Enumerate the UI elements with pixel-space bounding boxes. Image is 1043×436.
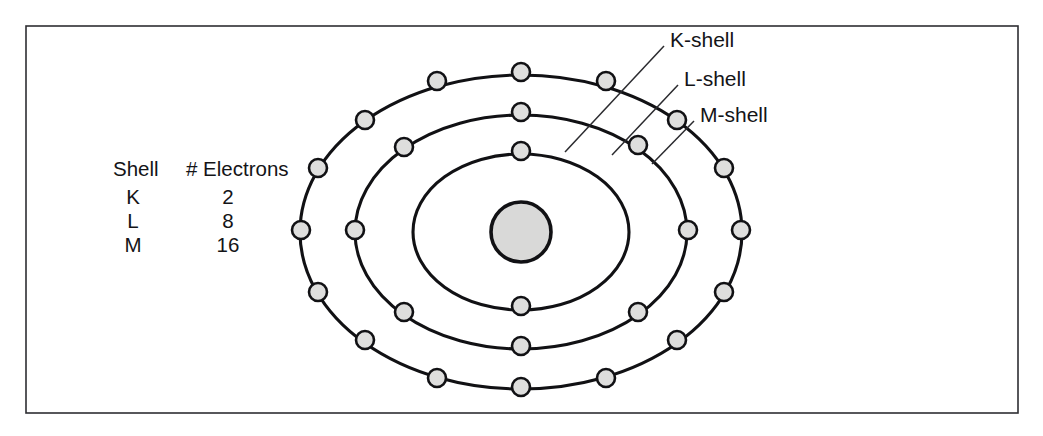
electron-m — [597, 369, 615, 387]
electron-m — [428, 369, 446, 387]
callout-label-l-shell: L-shell — [684, 67, 746, 90]
electron-l — [395, 138, 413, 156]
electron-m — [428, 72, 446, 90]
callout-label-k-shell: K-shell — [670, 28, 734, 51]
legend-cell-shell: K — [126, 185, 140, 208]
electron-m — [597, 72, 615, 90]
electron-m — [668, 111, 686, 129]
legend-cell-electrons: 8 — [222, 209, 233, 232]
electron-m — [715, 283, 733, 301]
legend-header-electrons: # Electrons — [186, 157, 289, 180]
electron-l — [395, 303, 413, 321]
nucleus — [491, 202, 551, 262]
legend-cell-shell: L — [127, 209, 138, 232]
electron-m — [356, 331, 374, 349]
electron-m — [292, 221, 310, 239]
diagram-canvas: K-shellL-shellM-shell Shell # Electrons … — [0, 0, 1043, 436]
electron-m — [512, 378, 530, 396]
legend-rows: K2L8M16 — [124, 185, 239, 256]
atomic-shell-diagram-figure: K-shellL-shellM-shell Shell # Electrons … — [0, 0, 1043, 436]
legend-cell-shell: M — [124, 233, 141, 256]
electron-l — [629, 303, 647, 321]
electron-l — [346, 221, 364, 239]
electron-m — [715, 159, 733, 177]
legend-cell-electrons: 16 — [217, 233, 240, 256]
electron-k — [512, 142, 530, 160]
electron-l — [679, 221, 697, 239]
electron-m — [512, 63, 530, 81]
callout-label-m-shell: M-shell — [700, 103, 768, 126]
electron-m — [732, 221, 750, 239]
shell-callouts-group: K-shellL-shellM-shell — [565, 28, 768, 164]
electron-l — [512, 337, 530, 355]
electron-l — [629, 136, 647, 154]
electron-m — [356, 111, 374, 129]
legend-cell-electrons: 2 — [222, 185, 233, 208]
electron-m — [668, 331, 686, 349]
electron-m — [309, 283, 327, 301]
electron-k — [512, 297, 530, 315]
electron-m — [309, 159, 327, 177]
shell-electron-legend: Shell # Electrons K2L8M16 — [113, 157, 289, 256]
legend-header-shell: Shell — [113, 157, 159, 180]
electron-l — [512, 103, 530, 121]
